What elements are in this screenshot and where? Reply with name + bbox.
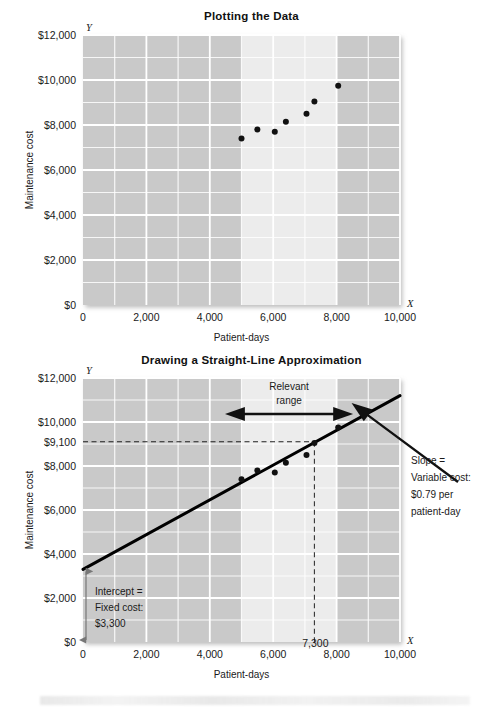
svg-text:$0: $0: [64, 299, 76, 311]
svg-text:range: range: [276, 395, 302, 406]
scatter-chart-bottom: $0$2,000$4,000$6,000$8,000$10,000$12,000…: [0, 350, 503, 707]
svg-text:$12,000: $12,000: [38, 29, 76, 41]
svg-text:Slope =: Slope =: [411, 455, 445, 466]
figure-straight-line-approximation: Drawing a Straight-Line Approximation: [0, 350, 503, 707]
svg-text:$3,300: $3,300: [95, 618, 126, 629]
figure-plotting-the-data: Plotting the Data $0$2,000$4,000$6,000$8…: [0, 0, 503, 350]
svg-text:$2,000: $2,000: [44, 254, 76, 266]
svg-text:Relevant: Relevant: [269, 381, 309, 392]
svg-text:$4,000: $4,000: [44, 548, 76, 560]
scatter-chart-top: $0$2,000$4,000$6,000$8,000$10,000$12,000…: [0, 0, 503, 350]
svg-text:10,000: 10,000: [384, 648, 416, 660]
svg-text:10,000: 10,000: [384, 311, 416, 323]
svg-text:8,000: 8,000: [323, 648, 349, 660]
svg-text:$0: $0: [64, 636, 76, 648]
svg-text:0: 0: [80, 648, 86, 660]
svg-text:4,000: 4,000: [197, 648, 223, 660]
svg-text:Y: Y: [86, 365, 93, 376]
svg-text:6,000: 6,000: [260, 311, 286, 323]
svg-text:$12,000: $12,000: [38, 372, 76, 384]
svg-text:2,000: 2,000: [133, 648, 159, 660]
svg-text:6,000: 6,000: [260, 648, 286, 660]
svg-text:0: 0: [80, 311, 86, 323]
svg-text:X: X: [406, 298, 414, 309]
svg-text:Maintenance cost: Maintenance cost: [24, 471, 35, 550]
svg-text:Fixed cost:: Fixed cost:: [95, 602, 143, 613]
svg-text:Intercept =: Intercept =: [95, 586, 143, 597]
svg-text:$0.79 per: $0.79 per: [411, 489, 454, 500]
svg-text:$4,000: $4,000: [44, 209, 76, 221]
svg-text:Y: Y: [86, 22, 93, 33]
svg-text:Variable cost:: Variable cost:: [411, 472, 471, 483]
svg-text:patient-day: patient-day: [411, 506, 460, 517]
svg-text:$10,000: $10,000: [38, 416, 76, 428]
svg-text:$9,100: $9,100: [44, 436, 76, 448]
svg-text:Maintenance cost: Maintenance cost: [24, 131, 35, 210]
svg-text:$6,000: $6,000: [44, 504, 76, 516]
svg-text:$2,000: $2,000: [44, 592, 76, 604]
svg-text:$6,000: $6,000: [44, 164, 76, 176]
svg-text:Patient-days: Patient-days: [214, 669, 270, 680]
svg-text:8,000: 8,000: [323, 311, 349, 323]
svg-text:7,300: 7,300: [302, 637, 328, 649]
svg-text:$8,000: $8,000: [44, 119, 76, 131]
page-footer-text-blur: [40, 696, 470, 705]
svg-text:X: X: [406, 635, 414, 646]
svg-text:$10,000: $10,000: [38, 74, 76, 86]
svg-text:Patient-days: Patient-days: [214, 332, 270, 343]
svg-text:$8,000: $8,000: [44, 460, 76, 472]
svg-text:4,000: 4,000: [197, 311, 223, 323]
svg-text:2,000: 2,000: [133, 311, 159, 323]
